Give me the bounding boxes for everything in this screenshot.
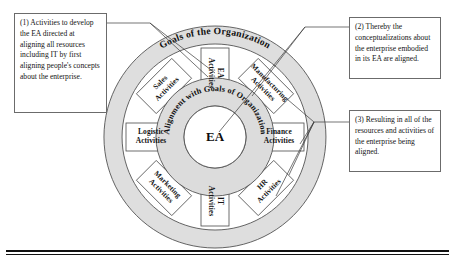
svg-text:Activities: Activities — [136, 136, 167, 145]
figure-canvas: Goals of the Organization Alignment with… — [0, 0, 455, 279]
svg-text:Activities: Activities — [264, 136, 295, 145]
callout-box-1: (1) Activities to develop the EA directe… — [14, 13, 107, 113]
spoke-label-finance: Finance Activities — [264, 127, 295, 145]
hub-label: EA — [206, 129, 225, 144]
svg-text:Activities: Activities — [207, 58, 216, 89]
spoke-label-logistic: Logistic Activities — [136, 127, 167, 145]
callout-box-2: (2) Thereby the conceptualizations about… — [349, 17, 441, 79]
svg-text:EA: EA — [216, 68, 225, 79]
bottom-rule-thick — [6, 250, 449, 252]
callout-box-3: (3) Resulting in all of the resources an… — [349, 110, 441, 172]
svg-text:Activities: Activities — [207, 186, 216, 217]
svg-text:Finance: Finance — [266, 127, 292, 136]
svg-text:Logistic: Logistic — [138, 127, 164, 136]
bottom-rule-thin — [6, 254, 449, 255]
svg-text:IT: IT — [216, 197, 225, 205]
